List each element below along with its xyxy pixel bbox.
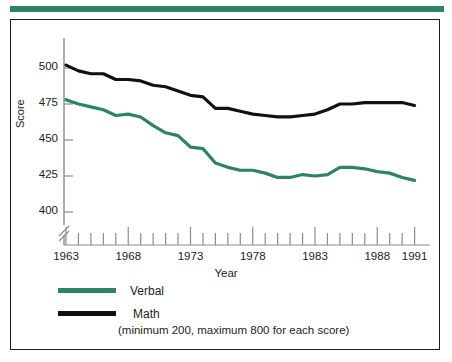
y-tick-label: 500 (20, 60, 58, 72)
y-axis-title: Score (14, 99, 26, 128)
series-layer (66, 65, 415, 180)
y-tick-label: 400 (20, 204, 58, 216)
legend-label-math: Math (133, 307, 160, 321)
plot-canvas (0, 0, 452, 362)
x-tick-label: 1978 (231, 250, 275, 262)
legend-swatch-verbal (58, 288, 116, 293)
sat-score-chart-figure: 500475450425400 196319681973197819831988… (0, 0, 452, 362)
y-tick-label: 425 (20, 168, 58, 180)
x-axis-title: Year (0, 267, 452, 279)
legend-swatch-math (58, 311, 116, 316)
x-tick-label: 1968 (106, 250, 150, 262)
x-tick-label: 1991 (393, 250, 437, 262)
y-tick-label: 450 (20, 132, 58, 144)
legend-note: (minimum 200, maximum 800 for each score… (118, 324, 349, 336)
legend-label-verbal: Verbal (130, 284, 164, 298)
x-tick-label: 1983 (293, 250, 337, 262)
x-tick-label: 1973 (169, 250, 213, 262)
axis-break-slash-upper (59, 226, 69, 236)
axes-layer (59, 38, 430, 245)
x-tick-label: 1963 (44, 250, 88, 262)
series-line-math (66, 65, 415, 117)
